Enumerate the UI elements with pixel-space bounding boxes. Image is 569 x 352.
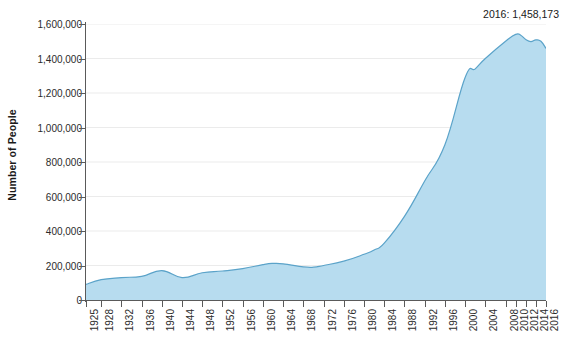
y-tick-label: 400,000 (24, 226, 82, 237)
y-tick-label: 1,000,000 (24, 122, 82, 133)
value-annotation: 2016: 1,458,173 (483, 8, 559, 20)
y-tick-mark (79, 231, 85, 232)
y-tick-mark (79, 93, 85, 94)
y-tick-mark (79, 128, 85, 129)
y-tick-mark (79, 162, 85, 163)
x-tick-label: 1996 (449, 309, 459, 331)
y-tick-label: 1,400,000 (24, 53, 82, 64)
y-tick-mark (79, 24, 85, 25)
y-tick-label: 600,000 (24, 191, 82, 202)
x-tick-label: 1936 (146, 309, 156, 331)
y-tick-label: 1,600,000 (24, 19, 82, 30)
x-tick-label: 1984 (388, 309, 398, 331)
x-tick-mark (506, 301, 507, 307)
x-tick-mark (162, 301, 163, 307)
y-axis-title-text: Number of People (6, 109, 18, 200)
x-tick-label: 1932 (125, 309, 135, 331)
x-tick-mark (364, 301, 365, 307)
x-tick-mark (86, 301, 87, 307)
x-tick-mark (526, 301, 527, 307)
x-tick-label: 2016 (550, 309, 560, 331)
x-tick-label: 1964 (287, 309, 297, 331)
x-tick-mark (425, 301, 426, 307)
x-tick-mark (546, 301, 547, 307)
x-tick-mark (222, 301, 223, 307)
x-tick-label: 1960 (267, 309, 277, 331)
x-tick-mark (142, 301, 143, 307)
x-tick-mark (384, 301, 385, 307)
x-tick-label: 1952 (226, 309, 236, 331)
y-tick-mark (79, 300, 85, 301)
x-tick-label: 2004 (489, 309, 499, 331)
y-tick-label: 0 (24, 295, 82, 306)
x-axis-line (85, 300, 546, 301)
y-tick-mark (79, 197, 85, 198)
x-tick-label: 1928 (105, 309, 115, 331)
y-tick-label: 1,200,000 (24, 88, 82, 99)
x-tick-label: 1925 (90, 309, 100, 331)
series-svg (86, 24, 546, 300)
x-tick-label: 1956 (247, 309, 257, 331)
y-tick-label: 800,000 (24, 157, 82, 168)
y-tick-mark (79, 266, 85, 267)
x-tick-label: 2000 (469, 309, 479, 331)
x-tick-label: 1944 (186, 309, 196, 331)
x-tick-label: 1968 (307, 309, 317, 331)
y-tick-label: 200,000 (24, 260, 82, 271)
x-tick-label: 1948 (206, 309, 216, 331)
y-axis-title: Number of People (0, 0, 24, 310)
x-tick-mark (243, 301, 244, 307)
x-tick-mark (404, 301, 405, 307)
x-tick-mark (101, 301, 102, 307)
plot-area (86, 24, 546, 300)
x-tick-mark (202, 301, 203, 307)
area-chart: Number of People 0200,000400,000600,0008… (0, 0, 569, 352)
x-tick-mark (182, 301, 183, 307)
x-tick-label: 1992 (429, 309, 439, 331)
x-tick-mark (303, 301, 304, 307)
x-tick-label: 1976 (348, 309, 358, 331)
x-tick-mark (263, 301, 264, 307)
x-tick-mark (324, 301, 325, 307)
x-tick-label: 1972 (328, 309, 338, 331)
x-tick-mark (516, 301, 517, 307)
y-axis-line (85, 22, 86, 302)
x-tick-label: 1988 (408, 309, 418, 331)
x-tick-mark (283, 301, 284, 307)
x-tick-label: 1980 (368, 309, 378, 331)
y-tick-mark (79, 59, 85, 60)
x-tick-mark (536, 301, 537, 307)
x-tick-mark (344, 301, 345, 307)
y-axis-tick-labels: 0200,000400,000600,000800,0001,000,0001,… (22, 0, 82, 352)
area-fill-path (86, 34, 546, 300)
x-tick-mark (485, 301, 486, 307)
x-tick-mark (445, 301, 446, 307)
x-tick-mark (121, 301, 122, 307)
x-tick-mark (465, 301, 466, 307)
x-tick-label: 1940 (166, 309, 176, 331)
